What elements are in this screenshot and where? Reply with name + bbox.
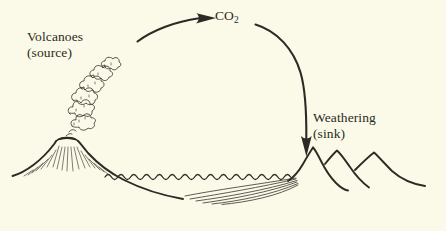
mountain-range	[288, 148, 425, 191]
volcanoes-label-line2: (source)	[27, 45, 83, 61]
volcano-cone	[13, 137, 184, 199]
volcanoes-label-line1: Volcanoes	[27, 29, 83, 45]
co2-label: CO2	[215, 8, 239, 28]
arrow-co2-to-weathering	[256, 25, 312, 157]
volcano-smoke-plume	[66, 57, 121, 136]
weathering-label-line2: (sink)	[313, 126, 376, 142]
co2-label-text: CO	[215, 8, 234, 23]
arrow-left-to-co2	[138, 13, 217, 41]
weathering-label-line1: Weathering	[313, 110, 376, 126]
volcanoes-label: Volcanoes (source)	[27, 29, 83, 60]
weathering-label: Weathering (sink)	[313, 110, 376, 141]
co2-label-subscript: 2	[234, 15, 239, 25]
ocean-surface	[105, 175, 291, 180]
carbon-cycle-diagram: Volcanoes (source) CO2 Weathering (sink)	[0, 0, 446, 231]
sediment-layers	[185, 178, 298, 205]
